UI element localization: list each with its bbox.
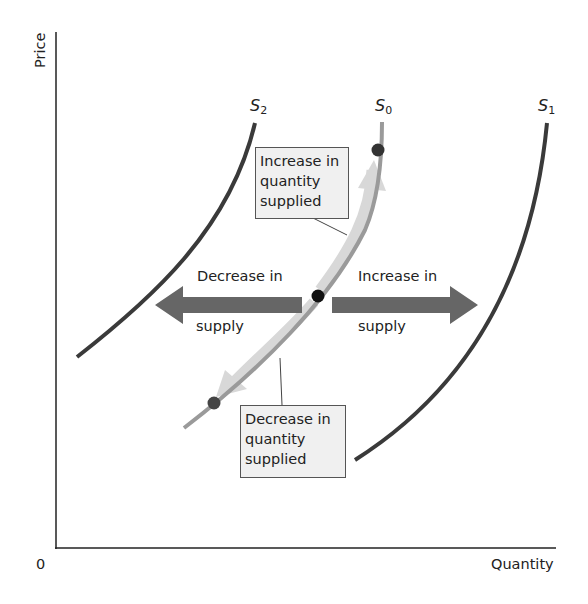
box-line: supplied: [245, 449, 341, 469]
movement-band-down: [232, 302, 314, 384]
leader-line-lower: [280, 358, 282, 405]
increase-supply-label-line1: Increase in: [358, 269, 437, 284]
point-equilibrium: [312, 290, 325, 303]
point-upper: [372, 144, 385, 157]
leader-line-upper: [313, 218, 347, 235]
decrease-quantity-supplied-box: Decrease in quantity supplied: [240, 405, 346, 478]
x-axis-label: Quantity: [491, 557, 554, 572]
box-line: Increase in: [260, 151, 344, 171]
box-line: Decrease in: [245, 409, 341, 429]
decrease-supply-label-line2: supply: [196, 319, 244, 334]
point-lower: [208, 397, 221, 410]
box-line: supplied: [260, 191, 344, 211]
box-line: quantity: [245, 429, 341, 449]
curve-label-s2: S2: [250, 98, 267, 116]
curve-label-s0: S0: [375, 98, 392, 116]
supply-diagram: [0, 0, 588, 604]
curve-label-s1: S1: [538, 98, 555, 116]
y-axis-label: Price: [32, 33, 48, 68]
increase-quantity-supplied-box: Increase in quantity supplied: [255, 147, 349, 219]
box-line: quantity: [260, 171, 344, 191]
increase-supply-label-line2: supply: [358, 319, 406, 334]
origin-label: 0: [36, 557, 45, 572]
decrease-supply-label-line1: Decrease in: [197, 269, 283, 284]
